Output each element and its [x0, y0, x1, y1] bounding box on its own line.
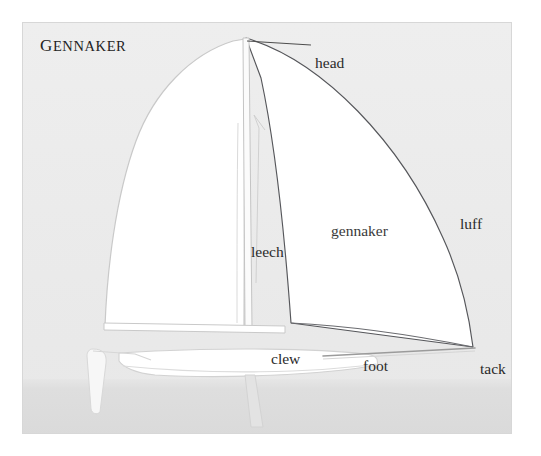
figure-caption: GENNAKER [40, 36, 126, 56]
label-head: head [315, 54, 344, 72]
illustration-page: GENNAKER head luff gennaker leech clew f… [0, 0, 541, 456]
caption-first-letter: G [40, 36, 53, 55]
rudder [87, 349, 106, 414]
daggerboard [245, 375, 263, 427]
spinnaker-pole-line [254, 115, 265, 130]
label-gennaker: gennaker [331, 222, 388, 240]
mainsail [105, 39, 245, 326]
label-tack: tack [480, 360, 506, 378]
caption-rest: ENNAKER [53, 38, 126, 54]
label-leech: leech [251, 243, 284, 261]
boom [104, 323, 285, 333]
label-foot: foot [363, 357, 388, 375]
figure-frame: GENNAKER head luff gennaker leech clew f… [22, 22, 512, 434]
gennaker-sail [246, 38, 473, 347]
mast [243, 38, 252, 328]
sailboat-diagram [23, 23, 512, 434]
label-clew: clew [271, 350, 300, 368]
label-luff: luff [460, 215, 482, 233]
